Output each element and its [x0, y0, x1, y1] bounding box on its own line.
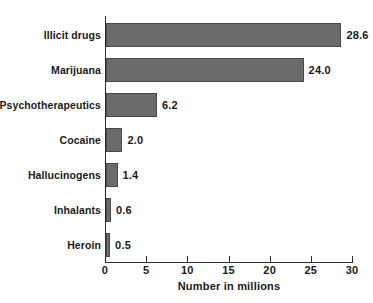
- bar-row: Inhalants0.6: [0, 198, 373, 222]
- bar-value-label: 1.4: [123, 169, 139, 181]
- bar-value-label: 0.6: [116, 204, 132, 216]
- bar-row: Marijuana24.0: [0, 58, 373, 82]
- category-label: Heroin: [67, 239, 101, 251]
- bar-value-label: 6.2: [162, 99, 178, 111]
- bar: [106, 58, 304, 82]
- category-label: Illicit drugs: [44, 29, 101, 41]
- category-label: Inhalants: [54, 204, 101, 216]
- x-tick-label: 25: [305, 264, 318, 276]
- category-label: Cocaine: [59, 134, 101, 146]
- bar-value-label: 2.0: [127, 134, 143, 146]
- bar: [106, 128, 122, 152]
- category-label: Hallucinogens: [28, 169, 101, 181]
- bar-value-label: 24.0: [309, 64, 331, 76]
- x-tick-label: 0: [102, 264, 108, 276]
- x-tick-mark: [311, 256, 312, 262]
- x-tick-mark: [352, 256, 353, 262]
- x-tick-label: 5: [143, 264, 149, 276]
- category-label: Marijuana: [51, 64, 101, 76]
- x-tick-mark: [270, 256, 271, 262]
- bar-chart: Illicit drugs28.6Marijuana24.0Psychother…: [0, 0, 373, 303]
- x-axis-line: [105, 262, 353, 263]
- x-tick-label: 15: [222, 264, 235, 276]
- bar-row: Illicit drugs28.6: [0, 23, 373, 47]
- plot-area: Illicit drugs28.6Marijuana24.0Psychother…: [0, 0, 373, 303]
- bar-row: Psychotherapeutics6.2: [0, 93, 373, 117]
- x-tick-label: 30: [346, 264, 359, 276]
- bar-value-label: 28.6: [346, 29, 368, 41]
- x-axis-title: Number in millions: [105, 280, 353, 292]
- bar: [106, 233, 110, 257]
- bar-row: Heroin0.5: [0, 233, 373, 257]
- bar-row: Hallucinogens1.4: [0, 163, 373, 187]
- bar-value-label: 0.5: [115, 239, 131, 251]
- category-label: Psychotherapeutics: [0, 99, 101, 111]
- bar-row: Cocaine2.0: [0, 128, 373, 152]
- x-tick-mark: [187, 256, 188, 262]
- x-tick-mark: [229, 256, 230, 262]
- x-tick-mark: [146, 256, 147, 262]
- x-tick-label: 10: [181, 264, 194, 276]
- bar: [106, 23, 341, 47]
- bar: [106, 93, 157, 117]
- x-tick-label: 20: [263, 264, 276, 276]
- bar: [106, 163, 118, 187]
- x-tick-mark: [105, 256, 106, 262]
- bar: [106, 198, 111, 222]
